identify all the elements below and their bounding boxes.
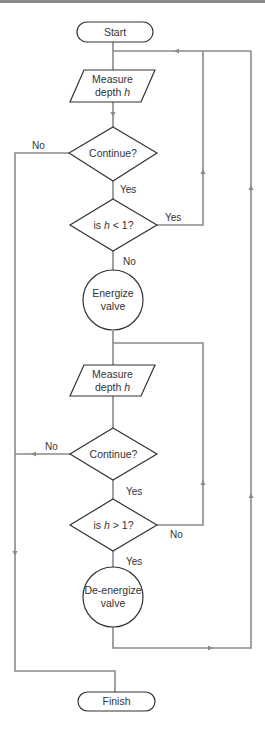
measure1-label-line1: Measure xyxy=(70,73,155,86)
arrow-left-icon xyxy=(174,49,179,54)
energize-label-line1: Energize xyxy=(83,287,143,300)
checklt-suffix: < 1? xyxy=(110,219,134,231)
checkgt-label: is h > 1? xyxy=(70,519,157,532)
arrow-up-icon xyxy=(201,169,206,174)
energize-label-line2: valve xyxy=(83,300,143,313)
checklt-label: is h < 1? xyxy=(70,219,157,232)
measure2-label-prefix: depth xyxy=(95,381,124,393)
measure2-label-var: h xyxy=(124,381,130,393)
checklt-prefix: is xyxy=(94,219,105,231)
arrow-up-icon xyxy=(249,185,254,190)
arrow-down-icon xyxy=(111,112,116,117)
edge-label-continue2-no: No xyxy=(45,441,58,453)
measure2-label: Measure depth h xyxy=(70,368,155,394)
arrow-up-icon xyxy=(201,480,206,485)
arrow-up-icon xyxy=(249,493,254,498)
start-label: Start xyxy=(77,26,153,39)
continue2-label: Continue? xyxy=(70,448,157,461)
connector-checklt-yes-loop xyxy=(157,51,203,225)
measure1-label-prefix: depth xyxy=(95,86,124,98)
measure1-label-var: h xyxy=(124,86,130,98)
deenergize-label-line1: De-energize xyxy=(78,584,148,597)
measure2-label-line1: Measure xyxy=(70,368,155,381)
edge-label-checkgt-yes: Yes xyxy=(126,556,142,568)
energize-label: Energize valve xyxy=(83,287,143,313)
continue1-label: Continue? xyxy=(69,147,157,160)
arrow-down-icon xyxy=(13,551,18,556)
edge-label-continue1-yes: Yes xyxy=(120,184,136,196)
edge-label-continue2-yes: Yes xyxy=(126,486,142,498)
edge-label-checkgt-no: No xyxy=(170,529,183,541)
measure1-label: Measure depth h xyxy=(70,73,155,99)
edge-label-checklt-no: No xyxy=(123,256,136,268)
edge-label-continue1-no: No xyxy=(32,140,45,152)
checkgt-prefix: is xyxy=(94,519,105,531)
checkgt-suffix: > 1? xyxy=(110,519,134,531)
finish-label: Finish xyxy=(78,695,155,708)
arrow-right-icon xyxy=(208,646,213,651)
edge-label-checklt-yes: Yes xyxy=(165,212,181,224)
deenergize-label: De-energize valve xyxy=(78,584,148,610)
measure1-label-line2: depth h xyxy=(70,86,155,99)
measure2-label-line2: depth h xyxy=(70,381,155,394)
deenergize-label-line2: valve xyxy=(78,597,148,610)
flowchart-canvas xyxy=(0,0,265,732)
arrow-left-icon xyxy=(31,452,36,457)
